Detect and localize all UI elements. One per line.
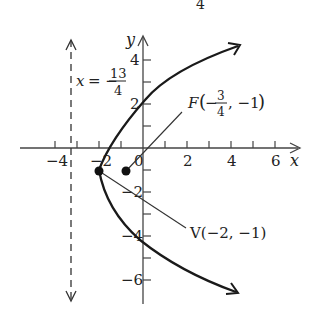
- x-axis-ticks: [55, 141, 275, 148]
- focus-label-num: 3: [217, 89, 225, 103]
- focus-label-den: 4: [217, 105, 225, 119]
- focus-label-letter: F: [187, 94, 199, 112]
- x-axis-label: x: [290, 151, 299, 170]
- focus-point: [122, 167, 131, 176]
- y-axis-label: y: [125, 30, 136, 49]
- y-tick-label: −6: [121, 271, 143, 289]
- parabola-diagram: 4 −4 −2 0 2 4 6 x: [0, 0, 314, 311]
- y-tick-label: −4: [121, 227, 143, 245]
- x-tick-label: 6: [271, 152, 281, 170]
- top-fragment-text: 4: [196, 0, 205, 12]
- directrix-label-var: x: [76, 72, 85, 90]
- x-tick-label: −4: [46, 152, 68, 170]
- x-axis: −4 −2 0 2 4 6 x: [20, 141, 300, 170]
- vertex-label: V(−2, −1): [189, 224, 266, 242]
- focus-label-close: ): [258, 91, 265, 112]
- y-tick-label: 4: [130, 51, 140, 69]
- directrix-label-den: 4: [114, 83, 122, 98]
- focus-leader-line: [126, 112, 182, 171]
- directrix-label: x = − 13 4: [74, 62, 127, 98]
- directrix-label-num: 13: [110, 66, 127, 81]
- focus-label-rest: , −1: [228, 94, 260, 112]
- x-tick-label: 2: [183, 152, 193, 170]
- focus-label: F ( − 3 4 , −1 ): [187, 89, 265, 119]
- vertex-point: [95, 167, 104, 176]
- x-tick-label: 4: [227, 152, 237, 170]
